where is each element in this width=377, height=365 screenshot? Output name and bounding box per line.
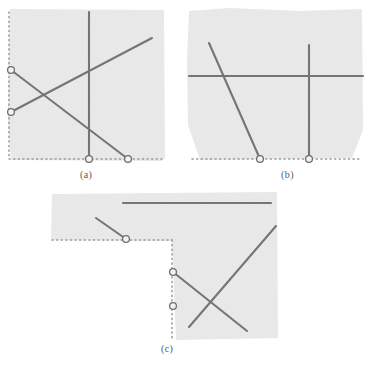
marker-step-upper — [170, 269, 177, 276]
panel-a — [8, 9, 165, 162]
panel-a-caption: (a) — [80, 169, 92, 180]
marker-bottom-left — [86, 156, 93, 163]
panel-b — [187, 8, 363, 162]
marker-upper-axis — [123, 236, 130, 243]
marker-step-lower — [170, 303, 177, 310]
panel-c-caption: (c) — [161, 343, 173, 354]
panel-b-fill — [187, 8, 363, 160]
figure-canvas — [0, 0, 377, 365]
marker-bottom-left — [257, 156, 264, 163]
marker-left-lower — [8, 109, 15, 116]
marker-bottom-right — [306, 156, 313, 163]
marker-bottom-right — [125, 156, 132, 163]
panel-b-caption: (b) — [281, 169, 294, 180]
figure-root: (a) (b) (c) — [0, 0, 377, 365]
marker-left-upper — [8, 67, 15, 74]
